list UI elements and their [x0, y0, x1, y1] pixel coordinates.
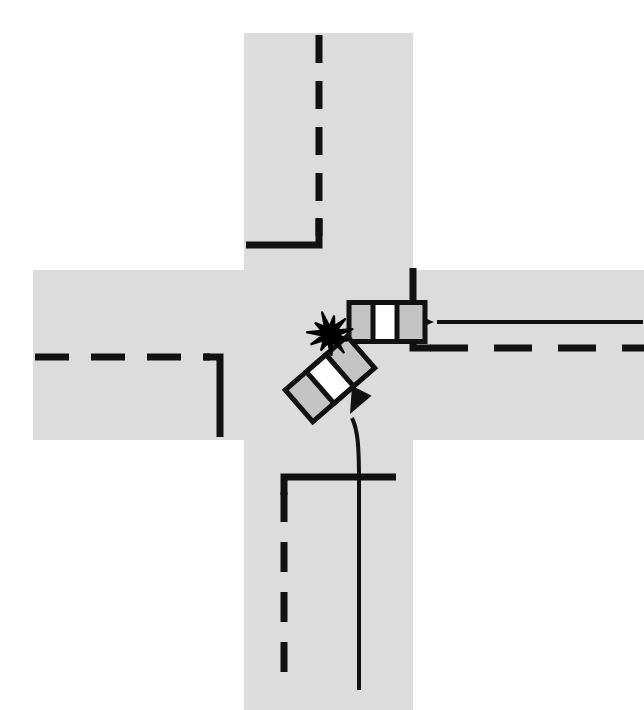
westbound-vehicle — [349, 303, 425, 342]
westbound-vehicle-window — [373, 303, 397, 342]
collision-diagram-canvas — [0, 0, 644, 710]
collision-diagram-root — [0, 0, 644, 710]
